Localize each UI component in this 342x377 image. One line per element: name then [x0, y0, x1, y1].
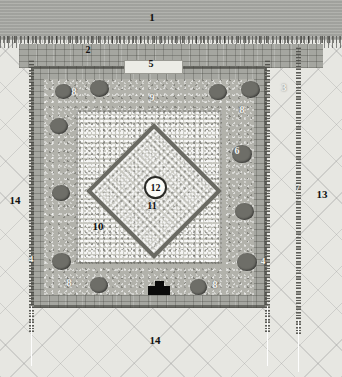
plan-label-8BR: 8: [213, 280, 218, 290]
plan-label-8TR: 8: [240, 105, 245, 115]
tree-pit-symbol: [52, 253, 71, 270]
plan-label-4L: 4: [29, 255, 34, 264]
tree-pit-symbol: [241, 81, 260, 98]
scarp-line-left: [29, 60, 34, 332]
plan-label-14B: 14: [150, 335, 161, 346]
plan-label-2: 2: [86, 45, 91, 55]
drop-line-far-right: [298, 320, 299, 372]
monument-cap: [155, 281, 164, 287]
tree-pit-symbol: [55, 84, 72, 99]
plan-label-5: 5: [149, 59, 154, 69]
plan-label-8BL: 8: [67, 278, 72, 288]
tree-pit-symbol: [209, 84, 227, 100]
plan-label-13: 13: [317, 189, 328, 200]
gate-marker: [124, 60, 183, 74]
plan-label-3: 3: [282, 83, 287, 93]
plan-label-10: 10: [93, 221, 104, 232]
plan-label-4R: 4: [261, 257, 266, 266]
tree-pit-symbol: [237, 253, 257, 271]
plan-label-7: 7: [296, 183, 301, 192]
plan-label-14L: 14: [10, 195, 21, 206]
tree-pit-symbol: [90, 80, 109, 97]
plan-label-6: 6: [235, 146, 240, 156]
plan-label-9: 9: [150, 93, 155, 103]
upper-field-band: [0, 0, 342, 40]
tree-pit-symbol: [52, 185, 70, 201]
tree-pit-symbol: [235, 203, 254, 220]
plan-label-1: 1: [149, 12, 155, 23]
plan-label-8TL: 8: [72, 87, 77, 97]
monument-base: [148, 286, 170, 295]
site-plan-figure: 1234456788889101112131414: [0, 0, 342, 377]
tree-pit-symbol: [90, 277, 108, 293]
scarp-line-right: [265, 60, 270, 332]
tree-pit-symbol: [50, 118, 68, 134]
plan-label-12: 12: [144, 176, 167, 199]
tree-pit-symbol: [190, 279, 207, 295]
drop-line-right: [267, 306, 268, 366]
plan-label-11: 11: [147, 201, 156, 211]
drop-line-left: [31, 306, 32, 366]
